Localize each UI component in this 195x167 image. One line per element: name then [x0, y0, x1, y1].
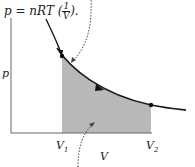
formula-fraction: 1V [62, 2, 70, 21]
pv-graph [0, 0, 195, 167]
formula-pointer [46, 19, 61, 53]
formula-prefix: p = nRT ( [4, 4, 62, 18]
v2-label: V2 [146, 140, 158, 154]
point-v2 [149, 103, 153, 107]
y-axis-label: p [2, 68, 9, 79]
x-axis-label: V [100, 151, 108, 162]
work-area-shade [62, 56, 151, 133]
formula-suffix: ). [70, 4, 79, 18]
ideal-gas-formula: p = nRT (1V). [4, 2, 79, 21]
fraction-denominator: V [62, 12, 70, 21]
v1-label: V1 [56, 140, 68, 154]
pv-diagram: p = nRT (1V). p V1 V2 V [0, 0, 195, 167]
